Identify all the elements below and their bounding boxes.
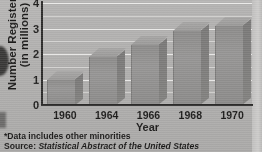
- gridline-major: [43, 3, 252, 4]
- bar-front-face: [47, 80, 75, 106]
- y-tick-label-0: 0: [25, 100, 39, 111]
- bar-1960: [47, 80, 74, 106]
- bar-side-face: [158, 38, 167, 105]
- x-tick-label-1968: 1968: [179, 109, 202, 121]
- bar-chart-figure: Number Registered* (in millions) 01234 1…: [0, 0, 262, 152]
- y-tick-label-1: 1: [25, 74, 39, 85]
- footnote-source: Source: Statistical Abstract of the Unit…: [4, 141, 254, 151]
- y-axis-title-line1: Number Registered*: [6, 0, 18, 90]
- footnote-source-title: Statistical Abstract of the United State…: [38, 141, 199, 151]
- x-tick-label-1970: 1970: [220, 109, 243, 121]
- bar-1968: [173, 31, 200, 105]
- y-tick-label-4: 4: [25, 0, 39, 9]
- x-tick-label-1964: 1964: [95, 109, 118, 121]
- y-axis-line: [41, 1, 43, 105]
- bar-side-face: [116, 50, 125, 105]
- scan-edge-right: [252, 0, 262, 152]
- bar-front-face: [131, 45, 159, 105]
- footnote-data-note: *Data includes other minorities: [4, 131, 254, 141]
- bar-1964: [89, 57, 116, 105]
- y-tick-label-3: 3: [25, 23, 39, 34]
- bar-front-face: [89, 57, 117, 105]
- gridline-minor: [43, 16, 252, 17]
- y-tick-label-2: 2: [25, 49, 39, 60]
- footnote-source-label: Source:: [4, 141, 38, 151]
- x-axis-line: [41, 104, 253, 106]
- plot-area: [43, 3, 252, 105]
- bar-1966: [131, 45, 158, 105]
- bar-front-face: [215, 26, 243, 105]
- y-axis-tick-labels: 01234: [22, 0, 39, 152]
- footnotes: *Data includes other minorities Source: …: [4, 131, 254, 151]
- x-tick-label-1966: 1966: [137, 109, 160, 121]
- scan-artifact-left-lower: [0, 112, 6, 128]
- bar-side-face: [200, 24, 209, 105]
- bar-side-face: [242, 19, 251, 105]
- bar-1970: [215, 26, 242, 105]
- x-tick-label-1960: 1960: [53, 109, 76, 121]
- bar-front-face: [173, 31, 201, 105]
